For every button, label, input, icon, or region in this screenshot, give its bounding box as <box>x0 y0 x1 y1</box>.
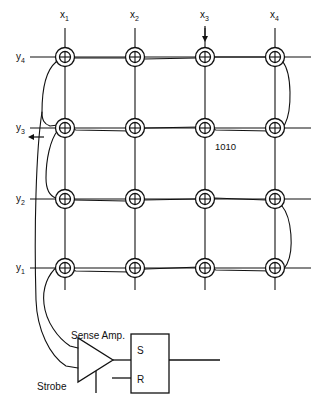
x-axis-label-x3: x3 <box>200 9 209 22</box>
core-x4-y2 <box>266 190 285 209</box>
sense-wire-left-r3-r2 <box>46 130 58 198</box>
core-x1-y1 <box>56 259 75 278</box>
selected-core-value: 1010 <box>215 141 236 152</box>
core-x2-y1 <box>126 259 145 278</box>
y-axis-label-y3: y3 <box>16 122 25 135</box>
sense-wire-row4 <box>56 57 283 62</box>
sense-wire <box>35 57 291 368</box>
y-axis-label-y1: y1 <box>16 262 25 275</box>
core-x1-y2 <box>56 190 75 209</box>
core-x3-y4 <box>196 48 215 67</box>
sense-amp-label: Sense Amp. <box>71 330 125 341</box>
strobe-label: Strobe <box>37 381 67 392</box>
sr-flip-flop <box>112 334 220 393</box>
core-x4-y1 <box>266 259 285 278</box>
y-axis-label-y2: y2 <box>16 193 25 206</box>
x-axis-label-x2: x2 <box>130 9 139 22</box>
drive-arrow-group <box>28 26 208 140</box>
x-axis-label-x4: x4 <box>270 9 279 22</box>
sense-wire-left-r4-r3 <box>42 62 58 126</box>
core-x2-y3 <box>126 119 145 138</box>
x-axis-label-subscript: 1 <box>65 15 69 22</box>
x-axis-label-subscript: 2 <box>135 15 139 22</box>
x-axis-label-subscript: 3 <box>205 15 209 22</box>
y-select-arrow-head-y3 <box>28 134 34 140</box>
flip-flop-set-label: S <box>137 345 144 356</box>
x-axis-label-x1: x1 <box>60 9 69 22</box>
x-label-group: x1x2x3x4 <box>60 9 279 22</box>
y-axis-label-subscript: 3 <box>21 128 25 135</box>
core-x3-y3 <box>196 119 215 138</box>
y-drive-line-group <box>30 57 311 268</box>
x-axis-label-subscript: 4 <box>275 15 279 22</box>
core-x4-y3 <box>266 119 285 138</box>
y-axis-label-subscript: 2 <box>21 199 25 206</box>
diagram-canvas: x1x2x3x4 y4y3y2y1 1010 Sense Amp. Strobe… <box>0 0 317 405</box>
core-x4-y4 <box>266 48 285 67</box>
y-label-group: y4y3y2y1 <box>16 51 25 275</box>
core-x3-y2 <box>196 190 215 209</box>
y-axis-label-subscript: 1 <box>21 268 25 275</box>
core-x2-y2 <box>126 190 145 209</box>
core-group <box>56 48 285 278</box>
core-x1-y4 <box>56 48 75 67</box>
y-axis-label-subscript: 4 <box>21 57 25 64</box>
flip-flop-reset-label: R <box>137 374 144 385</box>
x-select-arrow-head-x3 <box>202 36 208 42</box>
core-x3-y1 <box>196 259 215 278</box>
x-drive-line-group <box>65 28 275 290</box>
core-x2-y4 <box>126 48 145 67</box>
core-memory-schematic: x1x2x3x4 y4y3y2y1 1010 Sense Amp. Strobe… <box>0 0 317 405</box>
sense-amplifier <box>78 338 131 393</box>
sense-wire-row1 <box>58 266 272 272</box>
y-axis-label-y4: y4 <box>16 51 25 64</box>
core-x1-y3 <box>56 119 75 138</box>
